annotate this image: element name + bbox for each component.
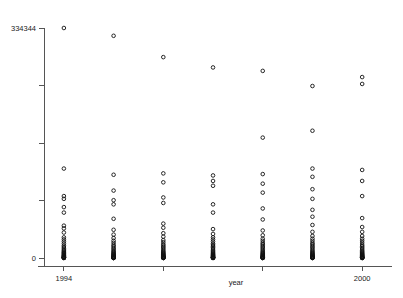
scatter-plot-figure: 334344 0 1994 2000 year (0, 0, 403, 298)
plot-canvas: 334344 0 1994 2000 year (0, 0, 403, 298)
y-axis-tick-label-top: 334344 (11, 24, 36, 33)
x-axis-title: year (229, 278, 244, 287)
data-points-layer (62, 26, 364, 260)
y-axis-tick-label-zero: 0 (32, 254, 36, 263)
y-axis (39, 28, 44, 266)
x-axis (38, 266, 392, 271)
x-axis-tick-label-1994: 1994 (56, 274, 73, 283)
x-axis-tick-label-2000: 2000 (354, 274, 371, 283)
